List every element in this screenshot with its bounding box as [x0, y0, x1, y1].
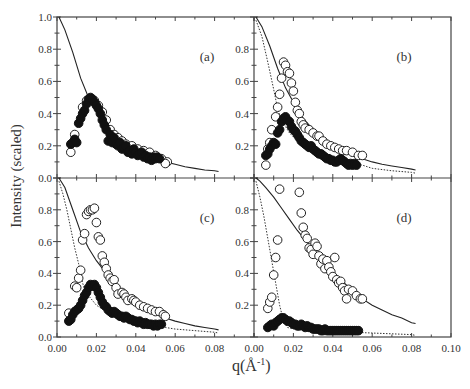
open-circle-marker — [92, 218, 101, 227]
y-tick-label: 0.4 — [38, 108, 52, 120]
solid-line — [256, 178, 416, 323]
y-tick-label: 0.2 — [38, 299, 52, 311]
x-axis-label: q(Å-1) — [232, 356, 271, 375]
y-tick-label: 1.0 — [38, 11, 52, 23]
plot-area: 0.00.20.40.60.81.0(a)0.20.40.60.8(b)0.00… — [0, 0, 470, 389]
x-tick-label: 0.02 — [87, 342, 106, 354]
y-tick-label: 0.2 — [235, 140, 249, 152]
open-circle-marker — [275, 90, 284, 99]
open-circle-marker — [90, 204, 99, 213]
y-tick-label: 0.6 — [38, 236, 52, 248]
filled-circle-marker — [271, 140, 280, 149]
filled-circle-marker — [72, 138, 81, 147]
open-circle-marker — [295, 188, 304, 197]
open-circle-marker — [358, 295, 367, 304]
panel-label: (b) — [396, 49, 411, 64]
open-circle-marker — [358, 151, 367, 160]
x-tick-label: 0.02 — [284, 342, 303, 354]
panel-c: 0.00.20.40.60.80.000.020.040.060.08(c) — [38, 178, 254, 354]
open-circle-marker — [66, 148, 75, 157]
x-tick-label: 0.08 — [205, 342, 225, 354]
x-tick-label: 0.08 — [402, 342, 422, 354]
open-circle-marker — [313, 242, 322, 251]
x-axis-label-main: q(Å — [232, 357, 257, 374]
y-tick-label: 0.2 — [38, 140, 52, 152]
open-circle-marker — [72, 283, 81, 292]
x-axis-label-close: ) — [265, 357, 270, 374]
open-circle-marker — [271, 253, 280, 262]
open-circle-marker — [269, 271, 278, 280]
y-tick-label: 0.6 — [235, 236, 249, 248]
x-tick-label: 0.06 — [166, 342, 186, 354]
x-tick-label: 0.04 — [323, 342, 343, 354]
y-tick-label: 0.2 — [235, 299, 249, 311]
figure: 0.00.20.40.60.81.0(a)0.20.40.60.8(b)0.00… — [0, 0, 470, 389]
panel-b: 0.20.40.60.8(b) — [235, 17, 451, 178]
x-tick-label: 0.06 — [363, 342, 383, 354]
open-circle-marker — [74, 274, 83, 283]
open-circle-marker — [342, 295, 351, 304]
y-tick-label: 0.8 — [38, 43, 52, 55]
panel-label: (a) — [200, 49, 214, 64]
open-circle-marker — [273, 236, 282, 245]
open-circle-marker — [267, 293, 276, 302]
open-circle-marker — [80, 229, 89, 238]
y-tick-label: 0.6 — [235, 75, 249, 87]
open-circle-marker — [297, 209, 306, 218]
y-tick-label: 0.8 — [235, 204, 249, 216]
panel-d: 0.20.40.60.80.000.020.040.060.080.10(d) — [235, 178, 461, 354]
open-circle-marker — [262, 161, 271, 170]
x-tick-label: 0.04 — [126, 342, 146, 354]
y-tick-label: 0.4 — [235, 108, 249, 120]
x-tick-label: 0.00 — [244, 342, 264, 354]
y-tick-label: 0.8 — [38, 204, 52, 216]
y-tick-label: 0.4 — [235, 267, 249, 279]
x-tick-label: 0.00 — [47, 342, 67, 354]
open-circle-marker — [96, 236, 105, 245]
open-circle-marker — [287, 79, 296, 88]
open-circle-marker — [295, 109, 304, 118]
open-circle-marker — [273, 103, 282, 112]
open-circle-marker — [330, 253, 339, 262]
y-tick-label: 0.4 — [38, 267, 52, 279]
open-circle-marker — [299, 223, 308, 232]
open-circle-marker — [303, 234, 312, 243]
filled-circle-marker — [352, 161, 361, 170]
filled-circle-marker — [155, 154, 164, 163]
open-circle-marker — [285, 69, 294, 78]
x-axis-label-exponent: -1 — [257, 356, 265, 367]
y-axis-label: Intensity (scaled) — [8, 106, 28, 246]
x-tick-label: 0.10 — [441, 342, 461, 354]
open-circle-marker — [291, 98, 300, 107]
panel-label: (d) — [396, 210, 411, 225]
panel-label: (c) — [200, 210, 214, 225]
filled-circle-marker — [275, 125, 284, 134]
y-tick-label: 0.6 — [38, 75, 52, 87]
filled-circle-marker — [157, 320, 166, 329]
y-tick-label: 0.0 — [38, 172, 52, 184]
open-circle-marker — [289, 87, 298, 96]
panel-a: 0.00.20.40.60.81.0(a) — [38, 11, 254, 184]
y-tick-label: 0.8 — [235, 43, 249, 55]
filled-circle-marker — [354, 326, 363, 335]
open-circle-marker — [110, 275, 119, 284]
open-circle-marker — [275, 185, 284, 194]
open-circle-marker — [76, 266, 85, 275]
open-circle-marker — [161, 312, 170, 321]
